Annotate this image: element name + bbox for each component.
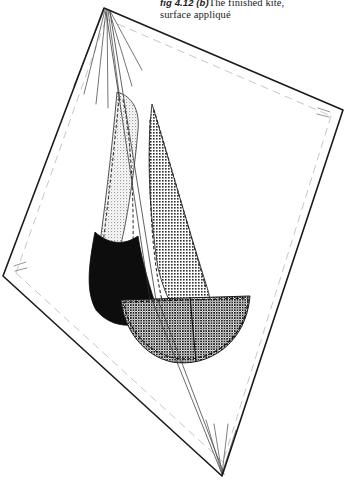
kite-illustration (0, 0, 351, 485)
figure-page: fig 4.12 (b)The finished kite, surface a… (0, 0, 351, 485)
kite-body (3, 8, 343, 476)
